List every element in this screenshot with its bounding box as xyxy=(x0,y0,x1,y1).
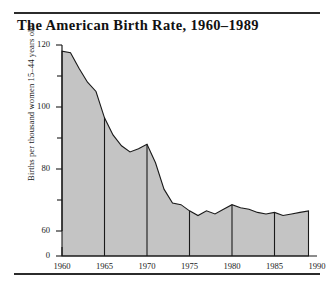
x-tick-label-1975: 1975 xyxy=(173,261,207,271)
figure-container: The American Birth Rate, 1960–1989 Birth… xyxy=(0,0,332,287)
y-tick-label-0: 0 xyxy=(28,250,50,260)
x-tick-label-1980: 1980 xyxy=(215,261,249,271)
y-tick-label-60: 60 xyxy=(28,225,50,235)
y-tick-marks xyxy=(56,45,62,256)
x-tick-label-1990: 1990 xyxy=(300,261,332,271)
y-tick-label-100: 100 xyxy=(28,101,50,111)
bottom-rule xyxy=(14,273,320,275)
y-tick-label-80: 80 xyxy=(28,163,50,173)
x-tick-label-1965: 1965 xyxy=(88,261,122,271)
area-series xyxy=(62,51,309,256)
y-tick-label-120: 120 xyxy=(28,39,50,49)
x-tick-label-1985: 1985 xyxy=(258,261,292,271)
birth-rate-area xyxy=(62,51,309,256)
x-tick-label-1970: 1970 xyxy=(130,261,164,271)
x-tick-label-1960: 1960 xyxy=(45,261,79,271)
